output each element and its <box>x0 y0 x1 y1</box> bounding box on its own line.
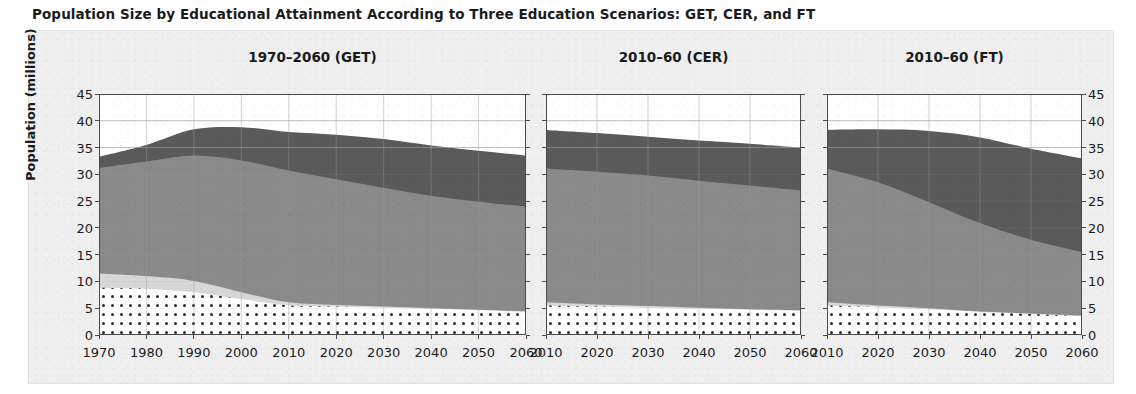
y-tick-label: 30 <box>59 167 93 182</box>
y-tick-label: 45 <box>1088 87 1105 102</box>
panel-title-cer: 2010–60 (CER) <box>546 49 801 65</box>
y-tick-mark <box>1082 308 1086 309</box>
panel-title-ft: 2010–60 (FT) <box>827 49 1082 65</box>
y-tick-mark <box>823 120 827 121</box>
y-tick-label: 25 <box>1088 194 1105 209</box>
x-tick-mark <box>929 335 930 339</box>
y-tick-mark <box>823 174 827 175</box>
x-tick-label: 2020 <box>580 345 613 360</box>
x-tick-label: 1970 <box>82 345 115 360</box>
y-tick-mark <box>801 254 805 255</box>
y-tick-label: 15 <box>1088 247 1105 262</box>
y-tick-label: 0 <box>59 328 93 343</box>
x-tick-mark <box>1031 335 1032 339</box>
y-tick-label: 0 <box>1088 328 1096 343</box>
figure-root: Population Size by Educational Attainmen… <box>0 0 1136 394</box>
x-tick-mark <box>1082 335 1083 339</box>
x-tick-label: 1980 <box>130 345 163 360</box>
x-tick-mark <box>99 335 100 339</box>
y-tick-mark <box>526 308 530 309</box>
y-tick-mark <box>526 281 530 282</box>
figure-title: Population Size by Educational Attainmen… <box>32 6 815 22</box>
y-tick-mark <box>526 227 530 228</box>
x-tick-mark <box>431 335 432 339</box>
figure-frame: Population (millions) 454035302520151050… <box>28 30 1114 384</box>
x-tick-label: 2040 <box>415 345 448 360</box>
x-tick-mark <box>478 335 479 339</box>
x-tick-label: 2030 <box>367 345 400 360</box>
x-tick-mark <box>241 335 242 339</box>
plot-area-get <box>99 94 526 335</box>
y-tick-mark <box>526 335 530 336</box>
y-tick-mark <box>801 120 805 121</box>
y-tick-mark <box>801 94 805 95</box>
y-tick-mark <box>801 335 805 336</box>
y-tick-mark <box>542 94 546 95</box>
y-tick-mark <box>1082 254 1086 255</box>
y-tick-mark <box>542 335 546 336</box>
x-tick-mark <box>288 335 289 339</box>
y-tick-label: 5 <box>1088 301 1096 316</box>
x-tick-mark <box>801 335 802 339</box>
y-tick-mark <box>801 147 805 148</box>
y-tick-mark <box>1082 174 1086 175</box>
x-tick-label: 2010 <box>810 345 843 360</box>
x-tick-label: 2040 <box>963 345 996 360</box>
x-tick-label: 2050 <box>462 345 495 360</box>
x-tick-label: 2040 <box>682 345 715 360</box>
x-tick-mark <box>878 335 879 339</box>
y-tick-mark <box>542 254 546 255</box>
x-tick-mark <box>193 335 194 339</box>
x-tick-label: 2060 <box>1065 345 1098 360</box>
y-tick-mark <box>95 201 99 202</box>
y-tick-mark <box>542 201 546 202</box>
y-tick-mark <box>823 147 827 148</box>
x-tick-label: 2020 <box>861 345 894 360</box>
x-tick-mark <box>648 335 649 339</box>
y-tick-mark <box>823 335 827 336</box>
x-tick-label: 2050 <box>733 345 766 360</box>
y-tick-mark <box>801 308 805 309</box>
y-tick-mark <box>542 147 546 148</box>
y-tick-mark <box>542 281 546 282</box>
y-tick-label: 25 <box>59 194 93 209</box>
y-tick-mark <box>823 201 827 202</box>
y-tick-mark <box>1082 227 1086 228</box>
x-tick-mark <box>383 335 384 339</box>
x-tick-mark <box>336 335 337 339</box>
y-tick-mark <box>1082 201 1086 202</box>
y-tick-mark <box>542 174 546 175</box>
y-tick-mark <box>526 147 530 148</box>
x-tick-label: 2010 <box>272 345 305 360</box>
y-tick-label: 30 <box>1088 167 1105 182</box>
y-tick-mark <box>823 281 827 282</box>
y-tick-mark <box>1082 94 1086 95</box>
y-tick-mark <box>95 281 99 282</box>
x-tick-mark <box>146 335 147 339</box>
y-tick-label: 40 <box>1088 113 1105 128</box>
y-tick-mark <box>1082 281 1086 282</box>
y-tick-label: 10 <box>59 274 93 289</box>
y-tick-mark <box>823 308 827 309</box>
y-tick-mark <box>95 254 99 255</box>
x-tick-mark <box>827 335 828 339</box>
y-axis-label: Population (millions) <box>23 28 38 181</box>
x-tick-mark <box>597 335 598 339</box>
y-tick-mark <box>1082 335 1086 336</box>
y-tick-mark <box>801 227 805 228</box>
y-tick-mark <box>823 94 827 95</box>
y-tick-mark <box>823 227 827 228</box>
y-tick-label: 35 <box>59 140 93 155</box>
y-tick-label: 20 <box>59 220 93 235</box>
y-tick-label: 15 <box>59 247 93 262</box>
y-tick-mark <box>526 201 530 202</box>
y-tick-mark <box>1082 120 1086 121</box>
x-tick-label: 2010 <box>529 345 562 360</box>
y-tick-label: 20 <box>1088 220 1105 235</box>
x-tick-label: 2030 <box>912 345 945 360</box>
x-tick-label: 2000 <box>225 345 258 360</box>
plot-area-ft <box>827 94 1082 335</box>
y-tick-label: 10 <box>1088 274 1105 289</box>
x-tick-mark <box>699 335 700 339</box>
y-tick-mark <box>95 94 99 95</box>
